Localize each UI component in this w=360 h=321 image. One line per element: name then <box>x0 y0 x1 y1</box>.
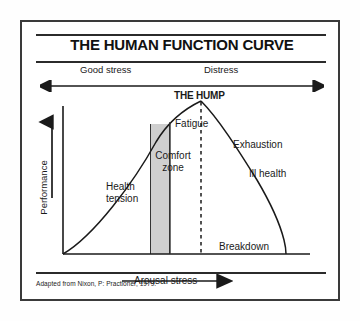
annotation-ill-health: Ill health <box>249 168 286 180</box>
annotation-breakdown: Breakdown <box>219 241 269 253</box>
annotation-exhaustion: Exhaustion <box>233 139 282 151</box>
annotation-fatigue: Fatigue <box>175 118 208 130</box>
annotation-comfort-zone: Comfort zone <box>149 150 197 174</box>
footer-rule <box>36 272 326 274</box>
source-credit: Adapted from Nixon, P: Practioner, 1979. <box>36 280 156 287</box>
figure-frame: THE HUMAN FUNCTION CURVE Good stress Dis… <box>20 20 340 301</box>
annotation-the-hump: THE HUMP <box>174 90 225 102</box>
human-function-curve-figure: THE HUMAN FUNCTION CURVE Good stress Dis… <box>0 0 360 321</box>
y-axis-label: Performance <box>38 151 49 225</box>
annotation-health-tension: Health tension <box>106 181 152 205</box>
